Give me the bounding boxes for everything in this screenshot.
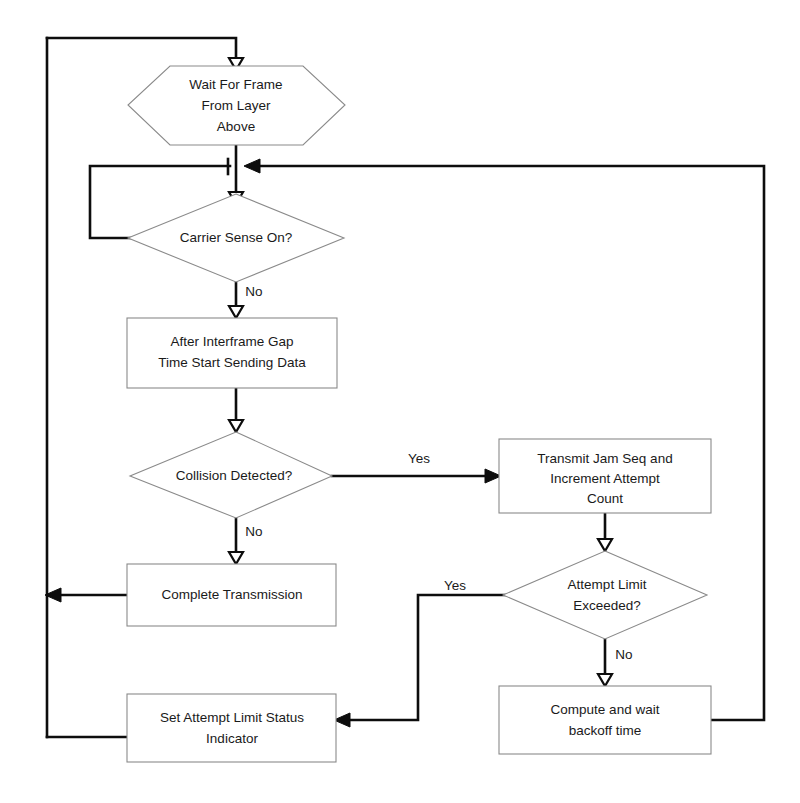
node-wait-for-frame[interactable]: Wait For Frame From Layer Above — [128, 66, 345, 145]
node-carrier-sense[interactable]: Carrier Sense On? — [128, 194, 344, 282]
node-set-attempt-limit-status-line-2: Indicator — [206, 731, 258, 746]
node-wait-for-frame-line-2: From Layer — [201, 98, 271, 113]
node-collision-detected-line-1: Collision Detected? — [176, 468, 292, 483]
connector-complete-to-left-rail — [45, 588, 127, 602]
node-attempt-limit-exceeded-line-1: Attempt Limit — [568, 577, 647, 592]
flowchart-svg: Wait For Frame From Layer Above Carrier … — [0, 0, 800, 803]
node-set-attempt-limit-status[interactable]: Set Attempt Limit Status Indicator — [127, 694, 336, 762]
node-after-interframe-gap-line-1: After Interframe Gap — [170, 334, 293, 349]
node-complete-transmission[interactable]: Complete Transmission — [127, 564, 336, 626]
connector-gap-to-collision — [229, 388, 243, 432]
connector-jam-to-attempt-limit — [598, 513, 612, 551]
node-after-interframe-gap-line-2: Time Start Sending Data — [158, 355, 306, 370]
node-wait-for-frame-line-1: Wait For Frame — [189, 77, 282, 92]
node-transmit-jam-seq-line-2: Increment Attempt — [550, 471, 660, 486]
node-attempt-limit-exceeded-line-2: Exceeded? — [573, 598, 641, 613]
edge-label-attempt-limit-yes: Yes — [444, 578, 466, 593]
node-compute-backoff-line-2: backoff time — [569, 723, 642, 738]
connector-carrier-sense-no — [229, 282, 243, 318]
node-transmit-jam-seq[interactable]: Transmit Jam Seq and Increment Attempt C… — [499, 439, 711, 513]
node-attempt-limit-exceeded[interactable]: Attempt Limit Exceeded? — [503, 551, 707, 639]
connector-collision-no — [229, 518, 243, 564]
node-wait-for-frame-line-3: Above — [217, 119, 255, 134]
node-transmit-jam-seq-line-3: Count — [587, 491, 623, 506]
node-collision-detected[interactable]: Collision Detected? — [130, 432, 332, 518]
connector-return-to-wait — [47, 38, 243, 70]
node-after-interframe-gap[interactable]: After Interframe Gap Time Start Sending … — [127, 318, 337, 388]
connector-attempt-limit-yes — [334, 595, 518, 727]
connector-collision-yes — [332, 469, 501, 483]
connector-attempt-limit-no — [598, 639, 612, 686]
node-compute-backoff[interactable]: Compute and wait backoff time — [499, 686, 711, 754]
edge-label-carrier-sense-no: No — [245, 284, 262, 299]
edge-label-collision-yes: Yes — [408, 451, 430, 466]
flowchart-canvas: Wait For Frame From Layer Above Carrier … — [0, 0, 800, 803]
node-set-attempt-limit-status-line-1: Set Attempt Limit Status — [160, 710, 304, 725]
node-compute-backoff-line-1: Compute and wait — [551, 702, 660, 717]
node-carrier-sense-line-1: Carrier Sense On? — [180, 230, 293, 245]
node-complete-transmission-line-1: Complete Transmission — [161, 587, 302, 602]
edge-label-attempt-limit-no: No — [615, 647, 632, 662]
edge-label-collision-no: No — [245, 524, 262, 539]
node-transmit-jam-seq-line-1: Transmit Jam Seq and — [537, 451, 672, 466]
